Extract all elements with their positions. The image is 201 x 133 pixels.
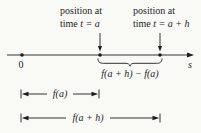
position-ah-line2-math: t = a + h [153,18,189,29]
position-a-dot [98,53,102,57]
position-ah-dot [158,53,162,57]
position-ah-line1-text: position at [133,5,175,16]
position-ah-pointer-arrow [158,33,162,52]
fa-right-arrowhead-icon [92,92,99,97]
position-a-annotation-line2: time t = a [60,17,102,30]
position-a-line1-text: position at [60,5,102,16]
axis-label: s [188,58,192,71]
position-a-pointer-arrow [98,33,102,52]
position-ah-annotation: position at time t = a + h [133,4,190,30]
position-a-line2-plain: time [60,18,80,29]
axis-arrowhead-icon [187,52,194,57]
position-ah-annotation-line1: position at [133,4,190,17]
position-a-annotation: position at time t = a [60,4,102,30]
fah-right-arrowhead-icon [153,116,160,121]
number-line-diagram: position at time t = a position at time … [0,0,201,133]
position-a-line2-math: t = a [80,18,100,29]
difference-label: f(a + h) − f(a) [101,67,158,80]
position-a-annotation-line1: position at [60,4,102,17]
position-ah-line2-plain: time [133,18,153,29]
s-axis [7,52,194,57]
fah-label: f(a + h) [72,111,103,124]
fa-label: f(a) [53,87,67,100]
position-ah-arrowhead-icon [158,46,162,52]
origin-label: 0 [19,58,24,71]
origin-dot [20,53,24,57]
difference-underbrace [98,59,162,67]
position-a-arrowhead-icon [98,46,102,52]
position-ah-annotation-line2: time t = a + h [133,17,190,30]
